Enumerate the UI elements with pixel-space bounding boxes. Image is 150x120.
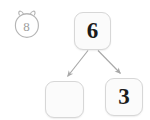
part-right-value: 3 (118, 85, 130, 108)
number-bond-part-right-box[interactable]: 3 (105, 78, 143, 116)
number-bond-canvas: 8 6 3 (0, 0, 150, 120)
arrow-whole-to-part-right (98, 51, 121, 74)
whole-value: 6 (87, 19, 99, 42)
number-bond-part-left-box[interactable] (45, 81, 84, 118)
arrow-whole-to-part-left (68, 51, 89, 77)
number-bond-whole-box[interactable]: 6 (74, 12, 111, 50)
